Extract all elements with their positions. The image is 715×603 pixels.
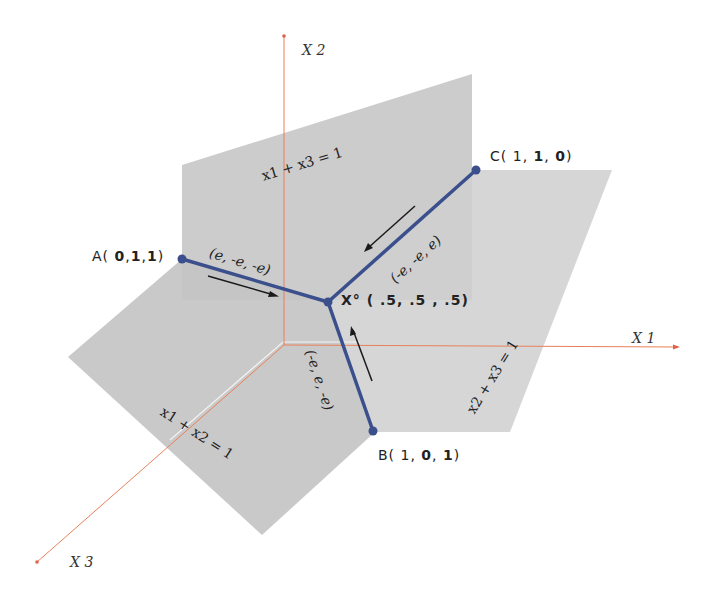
x2-axis-label: X 2 xyxy=(302,42,325,58)
point-a-label: A( 0,1,1) xyxy=(92,248,164,264)
point-c-close: ) xyxy=(566,148,572,164)
point-a-x2: 1 xyxy=(131,248,142,264)
point-c-name: C xyxy=(490,148,501,164)
point-c-x2: 1 xyxy=(534,148,545,164)
point-b-open: ( xyxy=(389,447,395,463)
x1-axis-arrow-icon xyxy=(673,345,680,350)
point-b-x3: 1 xyxy=(443,447,454,463)
point-b-close: ) xyxy=(454,447,460,463)
point-a-x3: 1 xyxy=(147,248,158,264)
x3-axis-tip xyxy=(35,560,39,564)
point-b-x1: 1 xyxy=(401,447,411,463)
x2-axis-tip xyxy=(282,34,286,38)
point-c-label: C( 1, 1, 0) xyxy=(490,148,572,164)
point-b-x2: 0 xyxy=(421,447,432,463)
x3-axis-label: X 3 xyxy=(70,554,93,570)
point-b-name: B xyxy=(378,447,389,463)
point-a-open: ( xyxy=(103,248,109,264)
point-a-name: A xyxy=(92,248,103,264)
point-b-label: B( 1, 0, 1) xyxy=(378,447,460,463)
x1-axis-label: X 1 xyxy=(632,330,655,346)
point-a xyxy=(178,255,187,264)
point-c xyxy=(472,166,481,175)
point-a-close: ) xyxy=(158,248,164,264)
point-c-x3: 0 xyxy=(555,148,566,164)
point-b xyxy=(369,427,378,436)
point-center-label: X° ( .5, .5 , .5) xyxy=(341,292,469,308)
point-a-x1: 0 xyxy=(115,248,126,264)
point-c-open: ( xyxy=(501,148,507,164)
point-center xyxy=(324,298,333,307)
point-c-x1: 1 xyxy=(513,148,523,164)
